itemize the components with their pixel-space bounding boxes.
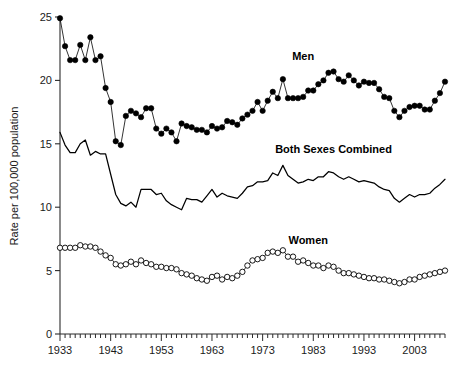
data-point — [240, 269, 245, 274]
suicide-rate-line-chart: 0510152025 19331943195319631973198319932… — [0, 0, 458, 368]
x-tick-label: 1933 — [48, 344, 72, 356]
data-point — [422, 273, 427, 278]
data-point — [230, 120, 235, 125]
data-point — [224, 118, 229, 123]
data-point — [270, 89, 275, 94]
data-point — [57, 16, 62, 21]
data-point — [219, 125, 224, 130]
data-point — [174, 139, 179, 144]
data-point — [356, 83, 361, 88]
data-point — [235, 122, 240, 127]
data-point — [164, 265, 169, 270]
data-point — [346, 73, 351, 78]
data-point — [235, 273, 240, 278]
data-point — [194, 127, 199, 132]
data-point — [255, 99, 260, 104]
data-point — [311, 88, 316, 93]
data-point — [387, 95, 392, 100]
data-point — [98, 249, 103, 254]
data-point — [290, 254, 295, 259]
data-point — [290, 95, 295, 100]
data-point — [336, 268, 341, 273]
data-point — [143, 260, 148, 265]
data-point — [351, 272, 356, 277]
data-point — [331, 264, 336, 269]
data-point — [361, 79, 366, 84]
data-point — [194, 276, 199, 281]
data-point — [164, 126, 169, 131]
y-tick-label: 20 — [40, 74, 52, 86]
data-point — [432, 270, 437, 275]
data-point — [275, 95, 280, 100]
data-point — [382, 277, 387, 282]
y-tick-label: 10 — [40, 201, 52, 213]
data-point — [285, 254, 290, 259]
data-point — [199, 127, 204, 132]
data-point — [376, 87, 381, 92]
data-point — [260, 255, 265, 260]
data-point — [103, 85, 108, 90]
data-point — [179, 121, 184, 126]
data-point — [387, 278, 392, 283]
data-point — [351, 78, 356, 83]
chart-figure: 0510152025 19331943195319631973198319932… — [0, 0, 458, 368]
data-point — [371, 276, 376, 281]
data-point — [57, 245, 62, 250]
data-point — [103, 253, 108, 258]
series-label-both-sexes-combined: Both Sexes Combined — [275, 143, 392, 155]
data-point — [250, 258, 255, 263]
data-point — [376, 277, 381, 282]
data-point — [427, 107, 432, 112]
data-point — [169, 265, 174, 270]
data-point — [260, 108, 265, 113]
data-point — [371, 80, 376, 85]
data-point — [361, 274, 366, 279]
x-tick-label: 1973 — [250, 344, 274, 356]
x-tick-label: 2003 — [402, 344, 426, 356]
data-point — [113, 139, 118, 144]
data-point — [321, 265, 326, 270]
data-point — [417, 274, 422, 279]
data-point — [169, 130, 174, 135]
data-point — [154, 264, 159, 269]
data-point — [219, 277, 224, 282]
data-point — [184, 272, 189, 277]
data-point — [245, 112, 250, 117]
data-point — [397, 281, 402, 286]
data-point — [118, 263, 123, 268]
data-point — [108, 99, 113, 104]
data-point — [250, 108, 255, 113]
data-point — [108, 255, 113, 260]
data-point — [417, 103, 422, 108]
data-point — [179, 270, 184, 275]
data-point — [204, 130, 209, 135]
data-point — [123, 113, 128, 118]
data-point — [199, 277, 204, 282]
data-point — [88, 35, 93, 40]
data-point — [392, 108, 397, 113]
data-point — [321, 78, 326, 83]
data-point — [412, 277, 417, 282]
data-point — [366, 276, 371, 281]
data-point — [184, 123, 189, 128]
data-point — [306, 260, 311, 265]
data-point — [437, 90, 442, 95]
x-tick-label: 1983 — [301, 344, 325, 356]
data-point — [402, 279, 407, 284]
data-point — [128, 108, 133, 113]
data-point — [143, 106, 148, 111]
data-point — [316, 263, 321, 268]
data-point — [275, 250, 280, 255]
data-point — [174, 267, 179, 272]
y-tick-label: 5 — [46, 265, 52, 277]
data-point — [280, 248, 285, 253]
y-tick-label: 25 — [40, 11, 52, 23]
data-point — [113, 262, 118, 267]
data-point — [356, 273, 361, 278]
data-point — [382, 94, 387, 99]
data-point — [88, 244, 93, 249]
x-tick-label: 1993 — [352, 344, 376, 356]
data-point — [98, 54, 103, 59]
data-point — [437, 269, 442, 274]
y-tick-label: 0 — [46, 328, 52, 340]
